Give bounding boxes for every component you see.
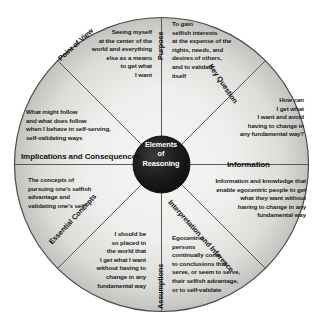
segment-text-implications-and-consequences: What might follow and what does follow w…: [26, 108, 140, 142]
segment-text-purpose: To gain selfish interests at the expense…: [172, 20, 250, 80]
hub-line-3: Reasoning: [132, 159, 190, 168]
segment-label-purpose: Purpose: [156, 32, 165, 61]
segment-text-point-of-view: Seeing myself at the center of the world…: [64, 28, 152, 80]
segment-label-information: Information: [227, 160, 270, 169]
segment-text-information: Information and knowledge that enable eg…: [186, 177, 306, 220]
hub-line-2: of: [132, 149, 190, 158]
segment-text-interpretation-and-inference: Egocentric persons continually come to c…: [172, 234, 258, 294]
segment-text-assumptions: I should be so placed in the world that …: [68, 230, 146, 290]
segment-text-key-question: How can I get what I want and avoid havi…: [212, 96, 304, 139]
segment-label-assumptions: Assumptions: [156, 264, 165, 309]
elements-of-reasoning-wheel-diagram: Purpose Key Question Information Interpr…: [0, 0, 323, 332]
segment-label-implications-and-consequences: Implications and Consequences: [21, 152, 140, 161]
segment-text-essential-concepts: The concepts of pursuing one's selfish a…: [28, 176, 108, 210]
center-hub-label: Elements of Reasoning: [132, 140, 190, 168]
hub-line-1: Elements: [132, 140, 190, 149]
